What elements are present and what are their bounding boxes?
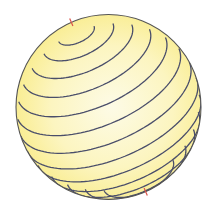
sphere-diagram xyxy=(0,0,221,221)
sphere xyxy=(16,15,201,200)
